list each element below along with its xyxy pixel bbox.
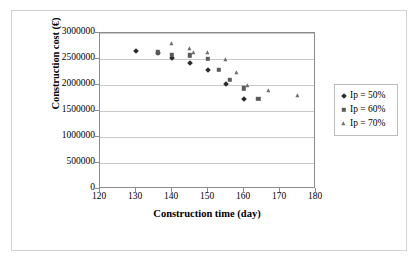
x-tick-mark <box>279 188 280 192</box>
y-tick-label: 2500000 <box>62 53 95 63</box>
triangle-marker-icon <box>339 119 348 129</box>
x-tick-mark <box>315 188 316 192</box>
diamond-marker-icon <box>339 91 348 101</box>
plot-area <box>99 32 315 188</box>
gridline <box>100 111 314 112</box>
x-tick-label: 130 <box>120 192 150 202</box>
x-tick-label: 180 <box>300 192 330 202</box>
legend-item: Ip = 50% <box>339 89 394 103</box>
y-axis-title: Construction cost (€) <box>50 4 61 124</box>
x-tick-label: 160 <box>228 192 258 202</box>
gridline <box>100 33 314 34</box>
x-tick-mark <box>135 188 136 192</box>
legend-label: Ip = 70% <box>348 119 385 129</box>
gridline <box>100 163 314 164</box>
x-tick-mark <box>243 188 244 192</box>
x-tick-label: 150 <box>192 192 222 202</box>
x-tick-mark <box>207 188 208 192</box>
legend-label: Ip = 60% <box>348 105 385 115</box>
chart-legend: Ip = 50%Ip = 60%Ip = 70% <box>334 84 398 136</box>
y-tick-label: 3000000 <box>62 27 95 37</box>
scatter-chart-figure: Construction cost (€) 050000010000001500… <box>0 0 419 270</box>
x-tick-mark <box>99 188 100 192</box>
square-marker-icon <box>339 105 348 115</box>
legend-label: Ip = 50% <box>348 91 385 101</box>
x-tick-label: 120 <box>84 192 114 202</box>
y-tick-label: 2000000 <box>62 79 95 89</box>
legend-item: Ip = 60% <box>339 103 394 117</box>
y-tick-label: 1500000 <box>62 105 95 115</box>
gridline <box>100 137 314 138</box>
x-tick-mark <box>171 188 172 192</box>
x-tick-label: 170 <box>264 192 294 202</box>
legend-item: Ip = 70% <box>339 117 394 131</box>
gridline <box>100 85 314 86</box>
x-tick-label: 140 <box>156 192 186 202</box>
y-tick-label: 1000000 <box>62 131 95 141</box>
x-axis-title: Construction time (day) <box>99 208 315 219</box>
y-tick-label: 500000 <box>67 157 96 167</box>
